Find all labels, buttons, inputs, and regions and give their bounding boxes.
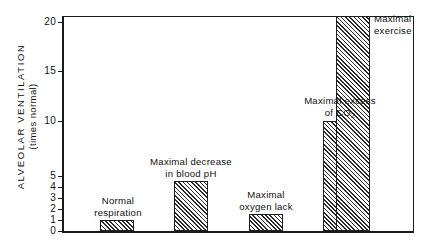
y-tick-mark-10	[58, 121, 64, 122]
caption-line: respiration	[70, 207, 166, 219]
y-tick-mark-2	[58, 209, 64, 210]
y-tick-mark-20	[58, 22, 64, 23]
y-tick-label-3: 3	[50, 193, 56, 203]
caption-line: Maximal	[374, 13, 426, 25]
caption-line: exercise	[374, 25, 426, 37]
y-axis-title: ALVEOLAR VENTILATION (times normal)	[15, 17, 38, 217]
bar-normal-respiration	[100, 220, 134, 231]
plot-inner: 0 1 2 3 4 5 10	[64, 17, 413, 231]
y-axis-title-line2: (times normal)	[27, 17, 38, 217]
bar-maximal-decrease-in-blood-ph	[174, 181, 208, 231]
caption-line: in blood pH	[125, 168, 257, 180]
plot-area: 0 1 2 3 4 5 10	[62, 16, 414, 233]
y-tick-label-2: 2	[50, 204, 56, 214]
caption-line: oxygen lack	[216, 201, 316, 213]
y-tick-mark-3	[58, 198, 64, 199]
y-tick-label-1: 1	[50, 215, 56, 225]
y-tick-mark-5	[58, 176, 64, 177]
y-tick-label-5: 5	[50, 171, 56, 181]
caption-line: Maximal decrease	[125, 156, 257, 168]
caption-line: Maximal	[216, 189, 316, 201]
caption-line: Normal	[70, 195, 166, 207]
caption-maximal-oxygen-lack: Maximal oxygen lack	[216, 189, 316, 212]
y-axis-title-line1: ALVEOLAR VENTILATION	[15, 17, 26, 217]
caption-maximal-decrease-in-blood-ph: Maximal decrease in blood pH	[125, 156, 257, 179]
y-tick-mark-1	[58, 220, 64, 221]
y-tick-label-0: 0	[50, 226, 56, 236]
bar-chart-figure: ALVEOLAR VENTILATION (times normal) 0 1 …	[0, 0, 426, 249]
y-tick-label-20: 20	[44, 17, 56, 27]
y-tick-mark-0	[58, 231, 64, 232]
y-tick-label-10: 10	[44, 116, 56, 126]
bar-maximal-exercise-visible	[336, 16, 370, 231]
y-tick-label-15: 15	[44, 66, 56, 76]
y-tick-mark-4	[58, 187, 64, 188]
bar-maximal-oxygen-lack	[249, 214, 283, 231]
y-tick-mark-15	[58, 71, 64, 72]
caption-maximal-exercise: Maximal exercise	[374, 13, 426, 36]
caption-normal-respiration: Normal respiration	[70, 195, 166, 218]
y-tick-label-4: 4	[50, 182, 56, 192]
